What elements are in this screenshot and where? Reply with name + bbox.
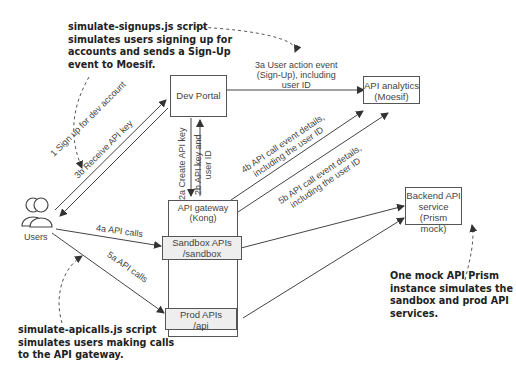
edge-2a-label: 2a Create API key bbox=[177, 127, 187, 200]
signups-callout: simulate-signups.js script simulates use… bbox=[68, 21, 232, 71]
users-label: Users bbox=[24, 232, 48, 242]
backend-node: Backend API service (Prism mock) bbox=[405, 187, 462, 225]
edge-3a-label: 3a User action event (Sign-Up), includin… bbox=[255, 60, 338, 90]
users-icon bbox=[22, 198, 52, 227]
gateway-label: API gateway (Kong) bbox=[168, 203, 238, 223]
prod-node: Prod APIs /api bbox=[165, 308, 237, 330]
analytics-node: API analytics (Moesif) bbox=[363, 76, 420, 104]
prism-callout: One mock API Prism instance simulates th… bbox=[390, 270, 513, 320]
edge-2b-label: 2b API key and user ID bbox=[193, 134, 213, 195]
sandbox-node: Sandbox APIs /sandbox bbox=[162, 236, 242, 260]
apicalls-callout: simulate-apicalls.js script simulates us… bbox=[18, 324, 174, 362]
dev-portal-node: Dev Portal bbox=[170, 75, 227, 117]
